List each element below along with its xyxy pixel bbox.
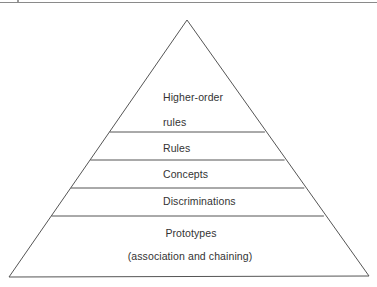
- level-concepts-label: Concepts: [163, 168, 208, 180]
- level-prototypes-label-line2: (association and chaining): [128, 250, 253, 262]
- level-rules-label: Rules: [163, 142, 190, 154]
- level-higher-order-label: Higher-order: [163, 91, 223, 103]
- level-discriminations-label: Discriminations: [163, 195, 236, 207]
- level-higher-order-label-line2: rules: [163, 116, 186, 128]
- level-prototypes-label: Prototypes: [165, 227, 216, 239]
